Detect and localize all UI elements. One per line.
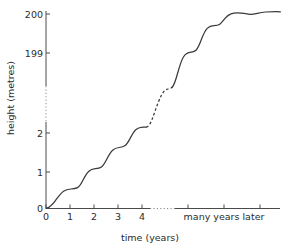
curve-segment-dashed-break (146, 87, 172, 127)
growth-curve-chart: 200 199 2 1 0 height (metres) (0, 0, 287, 248)
chart-figure: 200 199 2 1 0 height (metres) (0, 0, 287, 248)
x-tick-label-0: 0 (43, 211, 49, 222)
y-axis-group: 200 199 2 1 0 height (metres) (5, 9, 50, 214)
data-series-tree-height (47, 12, 281, 209)
curve-segment-solid-early (47, 127, 147, 208)
x-axis-group: 0 1 2 3 4 many years later time (years) (43, 205, 280, 244)
x-axis-many-years-later-label: many years later (184, 211, 265, 222)
x-tick-label-2: 2 (91, 211, 97, 222)
x-tick-label-4: 4 (139, 211, 145, 222)
y-tick-label-2: 2 (37, 128, 43, 139)
y-tick-label-200: 200 (25, 9, 43, 20)
x-tick-label-3: 3 (115, 211, 121, 222)
y-tick-label-199: 199 (25, 48, 43, 59)
x-tick-label-1: 1 (67, 211, 73, 222)
curve-segment-solid-late (172, 12, 280, 87)
x-axis-title: time (years) (121, 232, 179, 243)
y-tick-label-1: 1 (37, 167, 43, 178)
y-axis-title: height (metres) (5, 61, 16, 135)
